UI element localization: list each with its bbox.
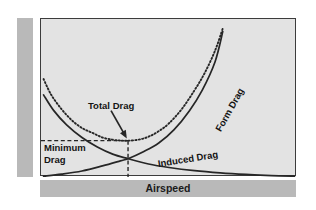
annotation-minimum-drag: Minimum Drag bbox=[44, 142, 86, 165]
plot-area: Total Drag Minimum Drag Induced Drag For… bbox=[40, 18, 296, 176]
x-axis-band: Airspeed bbox=[40, 180, 296, 197]
curve-total-drag bbox=[44, 28, 223, 140]
y-axis-band: Total Drag bbox=[17, 18, 33, 177]
x-axis-title: Airspeed bbox=[40, 180, 296, 197]
drag-vs-airspeed-figure: Total Drag Airspeed Total Drag Minimum D… bbox=[0, 0, 316, 210]
annotation-total-drag: Total Drag bbox=[88, 100, 134, 112]
annotation-minimum-drag-line1: Minimum bbox=[44, 142, 86, 154]
annotation-minimum-drag-line2: Drag bbox=[44, 154, 86, 166]
